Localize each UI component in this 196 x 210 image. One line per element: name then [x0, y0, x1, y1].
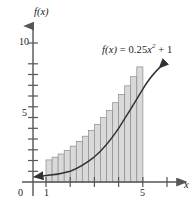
y-axis-label: f(x) [34, 7, 49, 18]
equation-tail: + 1 [156, 44, 173, 55]
riemann-rectangles [46, 67, 143, 182]
equation-equals: = [117, 44, 128, 55]
equation-coefficient: 0.25 [128, 44, 147, 55]
chart-canvas [0, 0, 196, 210]
equation-arg: (x) [105, 44, 117, 55]
y-tick-label-10: 10 [19, 37, 29, 47]
y-tick-label-5: 5 [22, 108, 27, 118]
origin-label: 0 [18, 188, 23, 198]
function-equation-label: f(x) = 0.25x2 + 1 [102, 43, 172, 55]
x-tick-label-5: 5 [140, 188, 145, 198]
riemann-sum-figure: f(x) x 10 5 0 1 5 f(x) = 0.25x2 + 1 [0, 0, 196, 210]
x-tick-label-1: 1 [44, 188, 49, 198]
x-axis-label: x [184, 180, 189, 191]
